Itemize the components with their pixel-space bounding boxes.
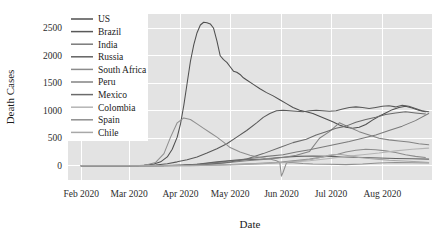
y-tick-label: 0 — [57, 161, 62, 171]
x-axis-title: Date — [240, 218, 261, 230]
legend-label-peru[interactable]: Peru — [98, 77, 116, 87]
x-tick-label: Apr 2020 — [162, 189, 198, 199]
legend-label-mexico[interactable]: Mexico — [98, 90, 127, 100]
x-axis-tick-labels: Feb 2020Mar 2020Apr 2020May 2020Jun 2020… — [63, 189, 401, 199]
x-tick-label: Aug 2020 — [363, 189, 401, 199]
chart-figure: Feb 2020Mar 2020Apr 2020May 2020Jun 2020… — [0, 0, 448, 233]
legend-label-russia[interactable]: Russia — [98, 52, 124, 62]
y-tick-label: 500 — [48, 133, 63, 143]
line-chart: Feb 2020Mar 2020Apr 2020May 2020Jun 2020… — [0, 0, 448, 233]
y-axis-tick-labels: 05001000150020002500 — [43, 23, 62, 170]
legend-label-india[interactable]: India — [98, 40, 118, 50]
y-tick-label: 1000 — [43, 106, 62, 116]
y-tick-label: 2500 — [43, 23, 62, 33]
x-tick-label: Feb 2020 — [63, 189, 99, 199]
legend-label-spain[interactable]: Spain — [98, 115, 120, 125]
legend-label-brazil[interactable]: Brazil — [98, 27, 122, 37]
legend-label-us[interactable]: US — [98, 14, 110, 24]
legend-label-chile[interactable]: Chile — [98, 128, 119, 138]
legend-label-colombia[interactable]: Colombia — [98, 103, 136, 113]
x-tick-label: Jul 2020 — [315, 189, 348, 199]
x-tick-label: Jun 2020 — [264, 189, 299, 199]
x-tick-label: May 2020 — [211, 189, 250, 199]
legend-label-south-africa[interactable]: South Africa — [98, 65, 147, 75]
y-axis-title: Death Cases — [4, 70, 16, 125]
x-tick-label: Mar 2020 — [111, 189, 148, 199]
y-tick-label: 2000 — [43, 51, 62, 61]
chart-legend: USBrazilIndiaRussiaSouth AfricaPeruMexic… — [68, 11, 148, 141]
y-tick-label: 1500 — [43, 78, 62, 88]
